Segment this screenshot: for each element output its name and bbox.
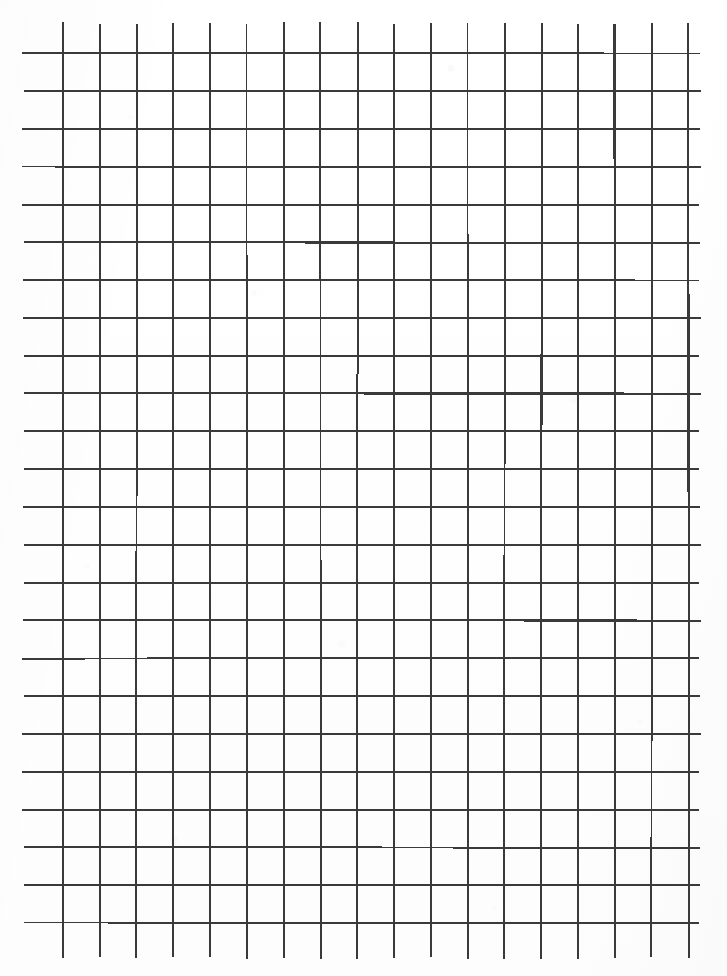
vertical-grid-line bbox=[357, 22, 358, 959]
vertical-grid-line bbox=[320, 22, 321, 958]
vertical-grid-line bbox=[651, 23, 652, 957]
vertical-grid-line bbox=[467, 23, 468, 960]
horizontal-grid-line bbox=[22, 772, 699, 773]
horizontal-grid-line bbox=[24, 923, 699, 924]
vertical-grid-line bbox=[688, 23, 689, 958]
horizontal-grid-lines bbox=[22, 53, 702, 923]
vertical-grid-line bbox=[210, 23, 211, 957]
vertical-grid-lines bbox=[63, 22, 689, 960]
horizontal-grid-line bbox=[23, 620, 701, 621]
horizontal-grid-line bbox=[22, 53, 700, 54]
vertical-grid-line bbox=[614, 24, 615, 958]
vertical-grid-line bbox=[541, 23, 542, 959]
grid-lines bbox=[0, 0, 727, 976]
horizontal-grid-line bbox=[24, 847, 700, 848]
grid-paper-sheet bbox=[0, 0, 727, 976]
vertical-grid-line bbox=[136, 24, 137, 959]
vertical-grid-line bbox=[504, 23, 505, 959]
horizontal-grid-line bbox=[23, 318, 702, 319]
horizontal-grid-line bbox=[22, 658, 699, 659]
